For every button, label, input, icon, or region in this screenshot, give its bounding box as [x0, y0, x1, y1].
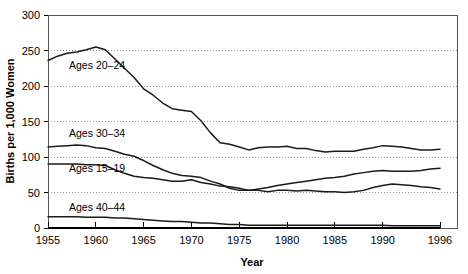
y-tick-label-50: 50	[28, 187, 40, 199]
y-tick-label-300: 300	[22, 9, 40, 21]
chart-container: 195519601965197019751980198519901996 050…	[0, 0, 468, 274]
y-tick-label-100: 100	[22, 151, 40, 163]
y-axis-title: Births per 1,000 Women	[4, 58, 16, 183]
line-chart: 195519601965197019751980198519901996 050…	[0, 0, 468, 274]
series-label-ages-20-24: Ages 20–24	[69, 59, 125, 71]
series-label-ages-15-19: Ages 15–19	[69, 162, 125, 174]
y-tick-label-150: 150	[22, 116, 40, 128]
x-tick-label-1985: 1985	[323, 234, 347, 246]
x-tick-label-1960: 1960	[84, 234, 108, 246]
y-tick-label-200: 200	[22, 80, 40, 92]
x-axis-tick-labels: 195519601965197019751980198519901996	[36, 234, 452, 246]
x-tick-label-1965: 1965	[131, 234, 155, 246]
x-tick-label-1980: 1980	[275, 234, 299, 246]
x-tick-label-1975: 1975	[227, 234, 251, 246]
y-tick-label-0: 0	[34, 222, 40, 234]
series-label-ages-30-34: Ages 30–34	[69, 127, 125, 139]
x-tick-label-1970: 1970	[179, 234, 203, 246]
x-tick-label-1996: 1996	[428, 234, 452, 246]
y-tick-label-250: 250	[22, 45, 40, 57]
x-tick-label-1990: 1990	[370, 234, 394, 246]
x-tick-label-1955: 1955	[36, 234, 60, 246]
series-label-ages-40-44: Ages 40–44	[69, 201, 125, 213]
x-axis-title: Year	[240, 256, 264, 268]
